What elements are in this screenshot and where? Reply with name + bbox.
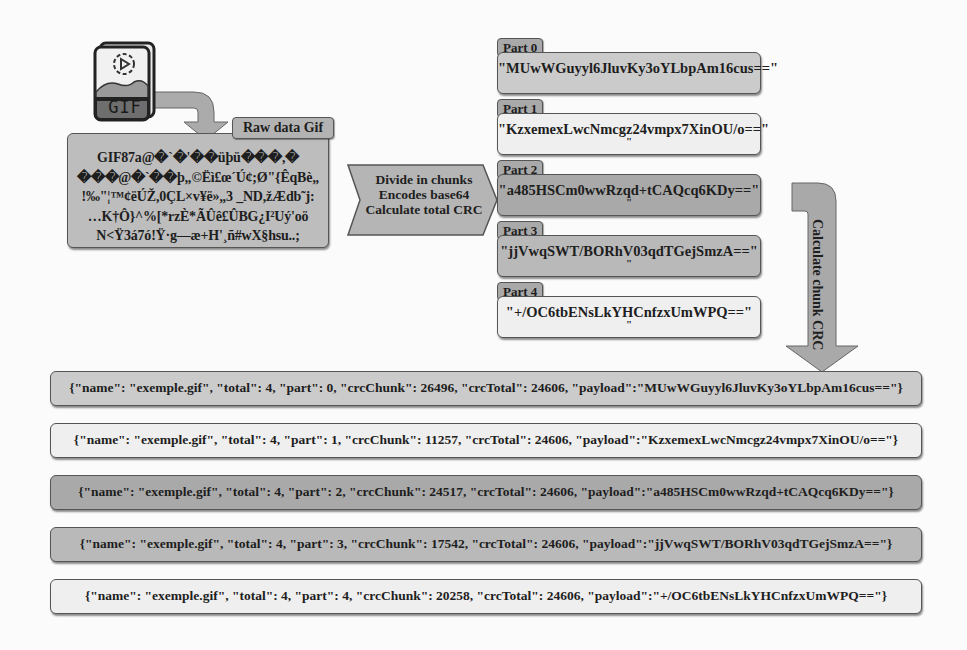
json-row-0: {"name": "exemple.gif", "total": 4, "par… <box>50 371 922 406</box>
part-box-0: "MUwWGuyyl6JluvKy3oYLbpAm16cus==" <box>497 52 761 94</box>
json-row-3: {"name": "exemple.gif", "total": 4, "par… <box>50 527 922 562</box>
part-box-1: "KzxemexLwcNmcgz24vmpx7XinOU/o==" " <box>497 113 761 155</box>
raw-data-line: !‰"¦™¢ëÚŽ,0ÇL×v¥ë»„3 _ND,žÆdb˜j: <box>68 187 328 207</box>
part-trail: " <box>498 259 760 267</box>
part-box-2: "a485HSCm0wwRzqd+tCAQcq6KDy==" " <box>497 174 761 216</box>
raw-data-line: …K†Ô}^%[*rzÈ*ÃÛê£ÛBG¿I²Uý'oö <box>68 207 328 227</box>
part-trail: " <box>498 320 760 328</box>
process-step: Encodes base64 <box>364 187 484 202</box>
part-box-3: "jjVwqSWT/BORhV03qdTGejSmzA==" " <box>497 235 761 277</box>
json-row-2: {"name": "exemple.gif", "total": 4, "par… <box>50 475 922 510</box>
part-value: "KzxemexLwcNmcgz24vmpx7XinOU/o==" <box>498 121 769 137</box>
process-step: Calculate total CRC <box>364 202 484 217</box>
part-value: "MUwWGuyyl6JluvKy3oYLbpAm16cus==" <box>498 60 778 76</box>
json-row-4: {"name": "exemple.gif", "total": 4, "par… <box>50 579 922 614</box>
raw-data-box: GIF87a@�`�'��üþü���,� ���@�`��þ„©Ëì£œ´Ú¢… <box>67 133 329 248</box>
part-box-4: "+/OC6tbENsLkYHCnfzxUmWPQ==" " <box>497 296 761 338</box>
json-row-1: {"name": "exemple.gif", "total": 4, "par… <box>50 423 922 458</box>
raw-data-line: GIF87a@�`�'��üþü���,� <box>68 148 328 168</box>
part-trail: " <box>498 198 760 206</box>
raw-data-line: N<Ÿ3á7ó!Ÿ·g—æ+H'¸ñ#wX§hsu..; <box>68 226 328 246</box>
raw-data-tag: Raw data Gif <box>232 117 334 139</box>
gif-label: GIF <box>96 97 154 117</box>
crc-arrow-label: Calculate chunk CRC <box>807 190 827 380</box>
part-trail: " <box>498 137 760 145</box>
process-arrow-label: Divide in chunks Encodes base64 Calculat… <box>364 172 484 217</box>
raw-data-line: ���@�`��þ„©Ëì£œ´Ú¢;Ø"{ÊqBè„ <box>68 168 328 188</box>
process-step: Divide in chunks <box>364 172 484 187</box>
